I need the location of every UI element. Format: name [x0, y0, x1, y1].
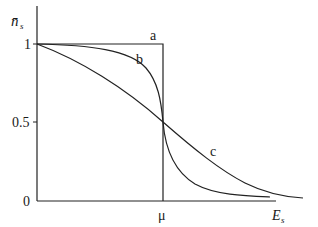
curve-c-label: c	[210, 144, 216, 159]
curve-b-label: b	[136, 52, 143, 67]
y-tick-label-1: 1	[24, 37, 31, 52]
y-axis-label-sub: s	[20, 21, 24, 31]
curve-a	[37, 44, 163, 201]
curve-b	[37, 44, 270, 197]
x-axis-label-sub: s	[281, 215, 285, 225]
distribution-diagram: n̄ s 1 0.5 0 μ E s a b c	[0, 0, 318, 227]
x-tick-label-mu: μ	[158, 208, 166, 223]
y-axis-label: n̄	[11, 13, 19, 29]
x-axis-label: E	[271, 208, 281, 223]
curve-a-label: a	[150, 28, 157, 43]
y-tick-label-0: 0	[23, 194, 30, 209]
curve-c	[37, 44, 303, 198]
y-tick-label-half: 0.5	[12, 115, 30, 130]
